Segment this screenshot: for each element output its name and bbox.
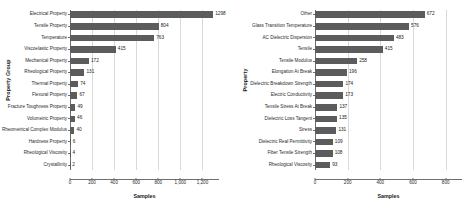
bar[interactable] (315, 23, 409, 30)
bar[interactable] (315, 162, 330, 169)
bar[interactable] (315, 139, 333, 146)
bar-row[interactable]: Rheological Viscosity4 (70, 149, 219, 159)
y-tick-mark (68, 118, 70, 119)
bar[interactable] (315, 81, 343, 88)
bar[interactable] (315, 116, 337, 123)
y-tick-mark (68, 49, 70, 50)
bar[interactable] (315, 46, 383, 53)
x-axis-ticks-right: 0200400600800 (315, 181, 462, 190)
bar-row[interactable]: Tensile Stress At Break137 (315, 103, 462, 113)
y-tick-mark (313, 84, 315, 85)
bar-value-label: 174 (345, 82, 353, 87)
bar-category-label: Tensile (298, 47, 312, 52)
x-tick-mark (180, 178, 181, 180)
bar[interactable] (70, 92, 77, 99)
bar[interactable] (70, 104, 75, 111)
bar-row[interactable]: Elongation At Break196 (315, 68, 462, 78)
bar[interactable] (70, 139, 71, 146)
bar-value-label: 172 (91, 59, 99, 64)
bar-value-label: 576 (411, 24, 419, 29)
bar-row[interactable]: Temperature763 (70, 33, 219, 43)
bar-value-label: 672 (427, 12, 435, 17)
bar-value-label: 763 (156, 36, 164, 41)
bar-row[interactable]: Tensile Modulus258 (315, 56, 462, 66)
bar-row[interactable]: AC Dielectric Dispersion483 (315, 33, 462, 43)
bar-category-label: Electric Conductivity (271, 93, 312, 98)
y-tick-mark (68, 153, 70, 154)
bar-category-label: Dielectric Real Permittivity (259, 140, 312, 145)
bar[interactable] (70, 116, 75, 123)
bar-category-label: Rheological Property (24, 70, 67, 75)
bar[interactable] (315, 11, 425, 18)
y-axis-title-left: Property Group (2, 0, 14, 160)
bar-row[interactable]: Dielectric Loss Tangent135 (315, 114, 462, 124)
bars-right: Other672Glass Transition Temperature576A… (315, 10, 462, 170)
bar-row[interactable]: Viscoelastic Property415 (70, 45, 219, 55)
bar-row[interactable]: Stress131 (315, 126, 462, 136)
bar-row[interactable]: Hardness Property6 (70, 137, 219, 147)
bar-category-label: Crystallinity (44, 163, 67, 168)
x-tick-mark (92, 178, 93, 180)
bar[interactable] (315, 150, 333, 157)
bar[interactable] (315, 58, 357, 65)
bar-row[interactable]: Dielectric Real Permittivity109 (315, 137, 462, 147)
bar-category-label: Dielectric Loss Tangent (265, 117, 312, 122)
x-tick-label: 1,000 (175, 181, 187, 186)
bar-row[interactable]: Flexural Property67 (70, 91, 219, 101)
bar[interactable] (315, 127, 336, 134)
bar-row[interactable]: Tensile Property804 (70, 22, 219, 32)
bar[interactable] (70, 58, 89, 65)
y-tick-mark (313, 118, 315, 119)
bar[interactable] (315, 104, 337, 111)
bar[interactable] (315, 35, 394, 42)
x-tick-label: 0 (314, 181, 317, 186)
bar-row[interactable]: Fracture Toughness Property49 (70, 103, 219, 113)
bar[interactable] (70, 69, 84, 76)
x-tick-mark (445, 178, 446, 180)
bar-category-label: Rheometrical Complex Modulus (2, 128, 67, 133)
y-tick-mark (313, 49, 315, 50)
bars-left: Electrical Property1298Tensile Property8… (70, 10, 219, 170)
bar-row[interactable]: Dielectric Breakdown Strength174 (315, 79, 462, 89)
bar-row[interactable]: Mechanical Property172 (70, 56, 219, 66)
bar-row[interactable]: Rheological Property131 (70, 68, 219, 78)
bar-row[interactable]: Other672 (315, 10, 462, 20)
x-tick-label: 600 (409, 181, 417, 186)
x-tick-label: 0 (69, 181, 72, 186)
x-tick-label: 600 (132, 181, 140, 186)
bar-category-label: Rheological Viscosity (269, 163, 312, 168)
bar-category-label: Flexural Property (32, 93, 67, 98)
bar-value-label: 1298 (215, 12, 225, 17)
bar-value-label: 46 (77, 116, 82, 121)
bar-row[interactable]: Fiber Tensile Strength108 (315, 149, 462, 159)
bar[interactable] (70, 46, 116, 53)
bar-row[interactable]: Volumetric Property46 (70, 114, 219, 124)
x-tick-label: 400 (110, 181, 118, 186)
bar[interactable] (315, 69, 347, 76)
bar-row[interactable]: Rheological Viscosity93 (315, 160, 462, 170)
y-tick-mark (313, 141, 315, 142)
x-tick-mark (380, 178, 381, 180)
bar-row[interactable]: Electric Conductivity173 (315, 91, 462, 101)
bar-value-label: 49 (77, 105, 82, 110)
bar[interactable] (70, 11, 213, 18)
bar[interactable] (315, 92, 343, 99)
bar-category-label: Tensile Modulus (279, 59, 312, 64)
chart-panel-property-group: Property Group Electrical Property1298Te… (0, 0, 237, 202)
bar-row[interactable]: Electrical Property1298 (70, 10, 219, 20)
x-tick-mark (136, 178, 137, 180)
y-tick-mark (313, 130, 315, 131)
bar[interactable] (70, 127, 74, 134)
bar-value-label: 131 (86, 70, 94, 75)
bar-row[interactable]: Glass Transition Temperature576 (315, 22, 462, 32)
bar-row[interactable]: Rheometrical Complex Modulus40 (70, 126, 219, 136)
bar[interactable] (70, 81, 78, 88)
y-tick-mark (68, 95, 70, 96)
bar-row[interactable]: Crystallinity2 (70, 160, 219, 170)
bar-row[interactable]: Tensile415 (315, 45, 462, 55)
x-tick-label: 800 (442, 181, 450, 186)
bar-row[interactable]: Thermal Property74 (70, 79, 219, 89)
bar[interactable] (70, 35, 154, 42)
bar-category-label: Tensile Stress At Break (265, 105, 312, 110)
bar[interactable] (70, 23, 159, 30)
